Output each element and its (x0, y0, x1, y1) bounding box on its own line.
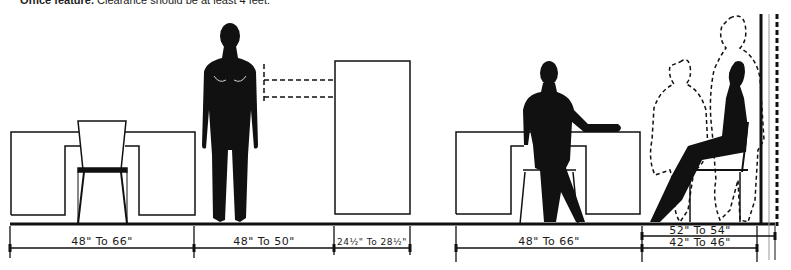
dim-cabinet-depth: 24½" To 28½" (337, 237, 407, 247)
file-cabinet (335, 61, 410, 214)
dim-desk-clearance-left: 48" To 66" (71, 235, 133, 248)
clearance-diagram: 48" To 66" 48" To 50" 24½" To 28½" 48" T… (0, 0, 791, 270)
desk-with-chair (11, 121, 195, 224)
dim-desk-clearance-right: 48" To 66" (518, 235, 580, 248)
seated-figure-at-desk (523, 61, 621, 222)
dim-seated-to-wall-inner: 42" To 46" (669, 236, 731, 249)
standing-figure (202, 23, 258, 222)
reach-lines (264, 64, 334, 102)
dim-standing-clearance: 48" To 50" (233, 235, 295, 248)
